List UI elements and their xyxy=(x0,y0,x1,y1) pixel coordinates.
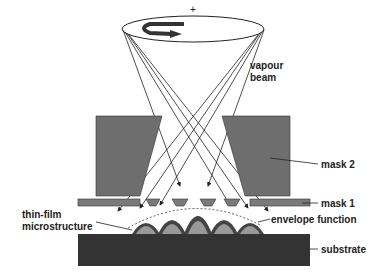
vapour-beam-label-1: vapour xyxy=(250,60,283,71)
vapour-beam-label-2: beam xyxy=(250,72,276,83)
thin-film-microstructure xyxy=(132,216,264,234)
rotation-center-mark: + xyxy=(190,4,196,15)
thin-film-label-2: microstructure xyxy=(22,221,93,232)
diagram-graphic xyxy=(0,0,389,280)
envelope-function-label: envelope function xyxy=(271,214,357,225)
mask-1 xyxy=(78,199,310,206)
mask-1-label: mask 1 xyxy=(321,198,355,209)
substrate-block xyxy=(78,234,310,266)
substrate-label: substrate xyxy=(321,244,366,255)
mask-2-label: mask 2 xyxy=(321,159,355,170)
mask-2-left xyxy=(96,116,162,196)
mask-2-right xyxy=(222,116,290,196)
deposition-diagram: + vapour beam mask 2 mask 1 thin-film mi… xyxy=(0,0,389,280)
thin-film-label-1: thin-film xyxy=(22,209,61,220)
rotation-arrow-icon xyxy=(144,24,184,34)
